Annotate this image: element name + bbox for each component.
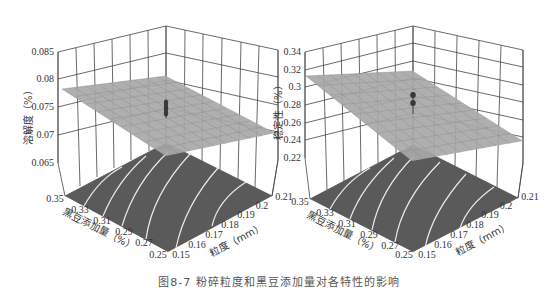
- svg-text:0.3: 0.3: [289, 81, 302, 92]
- svg-text:0.28: 0.28: [284, 99, 302, 110]
- svg-text:0.065: 0.065: [32, 157, 55, 168]
- svg-text:0.27: 0.27: [135, 237, 153, 248]
- svg-text:0.18: 0.18: [221, 219, 239, 230]
- svg-text:0.17: 0.17: [205, 229, 223, 240]
- svg-text:0.08: 0.08: [37, 73, 55, 84]
- svg-text:0.2: 0.2: [500, 200, 513, 211]
- z-axis-label: 溶解度（%）: [22, 85, 34, 145]
- svg-text:0.35: 0.35: [291, 196, 309, 207]
- z-axis-ticks: 0.085 0.08 0.075 0.07 0.065: [32, 46, 59, 168]
- svg-text:0.15: 0.15: [172, 249, 190, 260]
- svg-text:0.19: 0.19: [237, 209, 255, 220]
- response-surface: [62, 76, 275, 156]
- svg-text:0.15: 0.15: [418, 249, 436, 260]
- chart-solubility: 0.085 0.08 0.075 0.07 0.065 溶解度（%） 0.35 …: [22, 26, 293, 260]
- z-axis-ticks: 0.34 0.32 0.3 0.28 0.26 0.24 0.22: [284, 46, 306, 163]
- z-axis-label: 稳定性（%）: [272, 80, 284, 140]
- chart-stability: 0.34 0.32 0.3 0.28 0.26 0.24 0.22 稳定性（%）…: [272, 26, 539, 260]
- svg-text:0.17: 0.17: [450, 229, 468, 240]
- svg-text:0.21: 0.21: [275, 191, 293, 202]
- svg-text:0.16: 0.16: [188, 239, 206, 250]
- svg-text:0.32: 0.32: [284, 64, 302, 75]
- svg-text:0.35: 0.35: [46, 193, 64, 204]
- design-points: [164, 100, 168, 119]
- svg-text:0.24: 0.24: [284, 134, 302, 145]
- svg-text:0.25: 0.25: [395, 249, 413, 260]
- svg-text:0.34: 0.34: [284, 46, 302, 57]
- svg-text:0.07: 0.07: [37, 129, 55, 140]
- response-surface: [306, 71, 523, 161]
- svg-text:0.19: 0.19: [481, 209, 499, 220]
- svg-text:0.26: 0.26: [284, 117, 302, 128]
- svg-text:0.25: 0.25: [149, 249, 167, 260]
- svg-text:0.075: 0.075: [32, 101, 55, 112]
- figure-caption: 图8-7 粉碎粒度和黑豆添加量对各特性的影响: [0, 273, 558, 289]
- svg-text:0.21: 0.21: [521, 191, 539, 202]
- svg-text:0.2: 0.2: [256, 200, 269, 211]
- svg-text:0.16: 0.16: [434, 239, 452, 250]
- svg-text:0.18: 0.18: [466, 219, 484, 230]
- svg-text:0.085: 0.085: [32, 46, 55, 57]
- svg-text:0.22: 0.22: [284, 152, 302, 163]
